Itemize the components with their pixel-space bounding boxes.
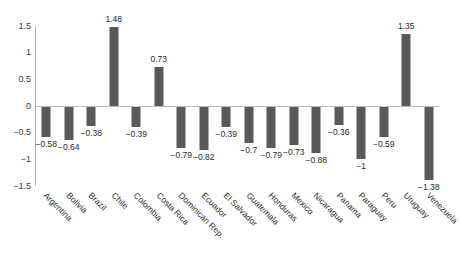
bar[interactable] bbox=[109, 27, 118, 106]
y-axis-tick-labels: 1.510.50−0.5−1−1.5 bbox=[0, 0, 31, 261]
bar-value-label: −0.82 bbox=[193, 153, 215, 162]
bar-value-label: −0.38 bbox=[80, 129, 102, 138]
bar[interactable] bbox=[244, 106, 253, 143]
bar[interactable] bbox=[424, 106, 433, 180]
bar[interactable] bbox=[132, 106, 141, 127]
bar[interactable] bbox=[87, 106, 96, 126]
bar-value-label: −0.39 bbox=[125, 130, 147, 139]
bar[interactable] bbox=[222, 106, 231, 127]
bar[interactable] bbox=[289, 106, 298, 145]
x-label-group: Peru bbox=[373, 191, 396, 261]
x-label-group: Argentina bbox=[35, 191, 58, 261]
bar[interactable] bbox=[154, 67, 163, 106]
bar[interactable] bbox=[64, 106, 73, 140]
x-label-group: Costa Rica bbox=[148, 191, 171, 261]
x-label-group: Bolivia bbox=[58, 191, 81, 261]
bar-value-label: −0.88 bbox=[305, 156, 327, 165]
x-label-group: Ecuador bbox=[193, 191, 216, 261]
bar-value-label: −0.58 bbox=[35, 140, 57, 149]
bar-value-label: 1.48 bbox=[105, 15, 122, 24]
bar-value-label: −0.64 bbox=[58, 143, 80, 152]
bar-value-label: −0.73 bbox=[283, 148, 305, 157]
y-tick-label: 1 bbox=[26, 48, 31, 57]
bar-value-label: −0.59 bbox=[373, 140, 395, 149]
bar[interactable] bbox=[357, 106, 366, 159]
bar-value-label: 0.73 bbox=[150, 55, 167, 64]
bar[interactable] bbox=[312, 106, 321, 153]
bar-value-label: 1.35 bbox=[398, 22, 415, 31]
bar[interactable] bbox=[379, 106, 388, 137]
bar[interactable] bbox=[334, 106, 343, 125]
x-label-group: Dominican Rep. bbox=[170, 191, 193, 261]
y-tick-label: 0 bbox=[26, 102, 31, 111]
y-tick-label: 1.5 bbox=[18, 22, 31, 31]
x-label-group: Venezuela bbox=[418, 191, 441, 261]
bar[interactable] bbox=[267, 106, 276, 148]
bar-value-label: −1 bbox=[356, 162, 366, 171]
x-label-group: Mexico bbox=[283, 191, 306, 261]
bar-value-label: −0.39 bbox=[215, 130, 237, 139]
x-label-group: Guatemala bbox=[238, 191, 261, 261]
bar[interactable] bbox=[402, 34, 411, 106]
bar[interactable] bbox=[177, 106, 186, 148]
bar-value-label: −0.79 bbox=[170, 151, 192, 160]
x-label-group: Honduras bbox=[260, 191, 283, 261]
x-label-group: Panama bbox=[328, 191, 351, 261]
bar-value-label: −1.38 bbox=[418, 183, 440, 192]
x-label-group: Chile bbox=[103, 191, 126, 261]
x-label-group: Nicaragua bbox=[305, 191, 328, 261]
x-label-group: El Salvador bbox=[215, 191, 238, 261]
x-axis-category-labels: ArgentinaBoliviaBrazilChileColombiaCosta… bbox=[35, 191, 440, 261]
x-label-group: Paraguay bbox=[350, 191, 373, 261]
y-tick-label: 0.5 bbox=[18, 75, 31, 84]
zero-baseline bbox=[35, 106, 440, 107]
bar-value-label: −0.7 bbox=[240, 146, 257, 155]
bar[interactable] bbox=[199, 106, 208, 150]
bar-value-label: −0.79 bbox=[260, 151, 282, 160]
y-tick-label: −1 bbox=[21, 155, 31, 164]
x-label-group: Colombia bbox=[125, 191, 148, 261]
y-tick-label: −0.5 bbox=[13, 128, 31, 137]
bar-value-label: −0.36 bbox=[328, 128, 350, 137]
y-tick-label: −1.5 bbox=[13, 182, 31, 191]
x-category-label: Venezuela bbox=[425, 191, 459, 225]
bar[interactable] bbox=[42, 106, 51, 137]
x-label-group: Uruguay bbox=[395, 191, 418, 261]
x-label-group: Brazil bbox=[80, 191, 103, 261]
